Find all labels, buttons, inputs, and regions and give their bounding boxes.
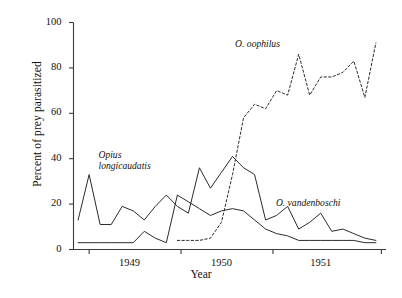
x-tick-label-1949: 1949 [100, 257, 160, 268]
chart-figure: Percent of prey parasitized Year 0 20 40… [0, 0, 402, 298]
series-label-opius-line2: longicaudatis [98, 160, 150, 171]
series-label-opius-line1: Opius [98, 149, 121, 160]
y-tick-label-40: 40 [22, 152, 62, 163]
y-tick-label-80: 80 [22, 61, 62, 72]
chart-axes [69, 23, 386, 255]
series-line-o-oophilus [177, 43, 376, 240]
chart-series-group [78, 43, 376, 243]
series-label-opius-longicaudatis: Opiuslongicaudatis [98, 150, 150, 171]
y-tick-label-60: 60 [22, 106, 62, 117]
x-tick-label-1950: 1950 [191, 257, 251, 268]
y-tick-label-100: 100 [22, 16, 62, 27]
y-tick-label-0: 0 [22, 243, 62, 254]
x-axis-title: Year [0, 268, 402, 280]
axis-spines [74, 23, 387, 250]
y-tick-label-20: 20 [22, 197, 62, 208]
series-label-o-oophilus: O. oophilus [235, 39, 280, 50]
series-label-o-vandenboschi: O. vandenboschi [276, 198, 340, 209]
x-tick-label-1951: 1951 [291, 257, 351, 268]
